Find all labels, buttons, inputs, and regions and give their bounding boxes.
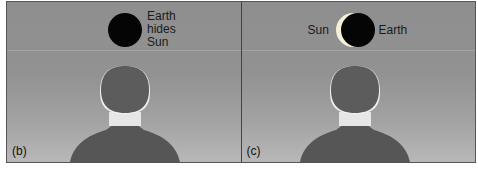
- panel-c: Sun Earth (c): [241, 2, 476, 162]
- panel-label-c: (c): [247, 144, 261, 158]
- person-back-icon: [300, 64, 410, 162]
- panel-label-b: (b): [12, 144, 27, 158]
- earth-disk-icon: [341, 13, 375, 47]
- earth-hides-sun-label: Earth hides Sun: [147, 10, 176, 49]
- label-line-3: Sun: [147, 36, 176, 49]
- sun-label: Sun: [308, 24, 329, 37]
- panel-b: Earth hides Sun (b): [7, 2, 241, 162]
- person-back-icon: [70, 64, 180, 162]
- earth-disk-icon: [108, 13, 142, 47]
- horizon-line: [242, 50, 476, 51]
- horizon-line: [7, 50, 241, 51]
- earth-label: Earth: [379, 24, 408, 37]
- figure-frame: Earth hides Sun (b) Sun Earth (c): [6, 1, 476, 163]
